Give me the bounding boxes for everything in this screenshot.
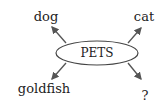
arrow-dog bbox=[52, 27, 66, 43]
arrow-goldfish bbox=[52, 63, 66, 79]
branch-label-dog: dog bbox=[34, 9, 58, 24]
branch-label-goldfish: goldfish bbox=[18, 81, 71, 96]
branch-label-question: ? bbox=[142, 88, 149, 103]
arrow-cat bbox=[128, 28, 141, 43]
center-label: PETS bbox=[80, 46, 113, 60]
pets-mind-map: PETS dog cat goldfish ? bbox=[0, 0, 156, 107]
arrow-question bbox=[128, 63, 141, 79]
branch-label-cat: cat bbox=[134, 9, 155, 24]
